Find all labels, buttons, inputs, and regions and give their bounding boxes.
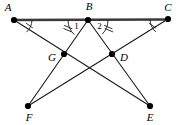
- vertex-dot-C: [165, 16, 171, 22]
- vertex-dot-E: [147, 103, 153, 109]
- vertex-dot-A: [11, 17, 17, 23]
- vertex-dot-D: [109, 51, 115, 57]
- vertex-label-A: A: [4, 1, 12, 13]
- vertex-label-C: C: [164, 1, 172, 13]
- segment-AE: [14, 20, 150, 106]
- vertex-label-F: F: [25, 111, 33, 123]
- vertex-label-E: E: [146, 111, 154, 123]
- angle-2-label: 2: [97, 21, 102, 31]
- vertex-label-B: B: [86, 0, 93, 12]
- segment-BF: [28, 20, 88, 106]
- vertex-dot-B: [85, 17, 91, 23]
- vertex-label-D: D: [119, 51, 128, 63]
- angle-2-tick-2: [105, 29, 113, 32]
- segments-group: [14, 19, 168, 106]
- angle-marks-group: 1 2: [27, 20, 156, 35]
- angle-1-mark: 1: [64, 20, 79, 35]
- vertex-dot-F: [25, 103, 31, 109]
- angle-2-tick-1: [105, 26, 113, 29]
- angle-1-tick-1: [65, 26, 73, 29]
- vertex-label-G: G: [48, 51, 56, 63]
- geometry-figure: 1 2 A: [0, 0, 178, 125]
- angle-1-label: 1: [74, 21, 79, 31]
- figure-canvas: 1 2 A: [0, 0, 178, 125]
- angle-2-mark: 2: [97, 20, 112, 34]
- vertex-dot-G: [61, 51, 67, 57]
